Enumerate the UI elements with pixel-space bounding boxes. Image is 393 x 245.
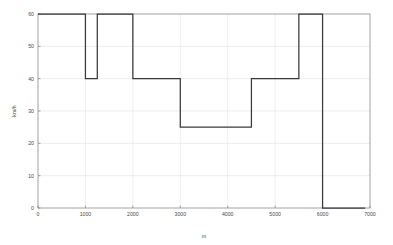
step-plot: 0102030405060 01000200030004000500060007… xyxy=(0,0,393,245)
x-axis-label: m xyxy=(202,233,206,239)
x-tick-label: 5000 xyxy=(269,211,281,217)
y-tick-label: 60 xyxy=(28,11,34,17)
y-tick-label: 50 xyxy=(28,43,34,49)
y-axis-label: km/h xyxy=(11,105,17,116)
x-tick-label: 6000 xyxy=(317,211,329,217)
x-tick-label: 2000 xyxy=(127,211,139,217)
chart-figure: 0102030405060 01000200030004000500060007… xyxy=(0,0,393,245)
y-tick-label: 20 xyxy=(28,140,34,146)
y-tick-label: 40 xyxy=(28,76,34,82)
x-tick-label: 0 xyxy=(37,211,40,217)
y-tick-label: 10 xyxy=(28,173,34,179)
x-tick-label: 7000 xyxy=(364,211,376,217)
y-tick-label: 0 xyxy=(31,205,34,211)
x-tick-label: 4000 xyxy=(222,211,234,217)
y-tick-label: 30 xyxy=(28,108,34,114)
x-tick-label: 1000 xyxy=(80,211,92,217)
x-tick-label: 3000 xyxy=(175,211,187,217)
